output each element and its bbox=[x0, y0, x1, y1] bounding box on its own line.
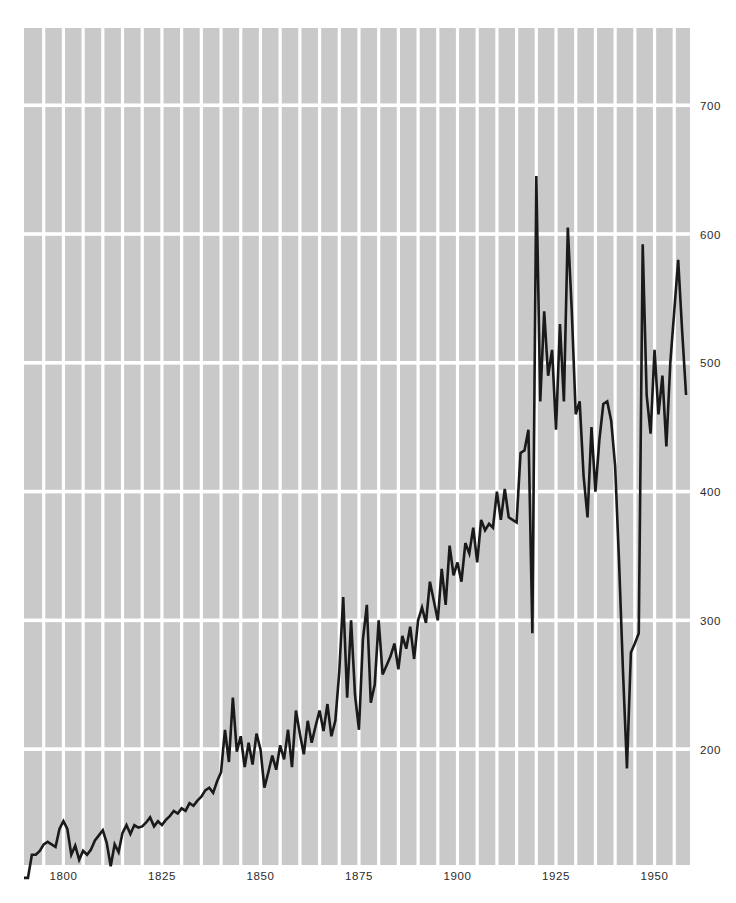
vertical-gridline bbox=[456, 28, 459, 865]
horizontal-gridline bbox=[24, 490, 690, 494]
line-chart: 200300400500600700 180018251850187519001… bbox=[0, 0, 736, 903]
vertical-gridline bbox=[82, 28, 85, 865]
vertical-gridline bbox=[180, 28, 183, 865]
horizontal-gridline bbox=[24, 103, 690, 107]
vertical-gridline bbox=[574, 28, 577, 865]
vertical-gridline bbox=[121, 28, 124, 865]
horizontal-gridline bbox=[24, 361, 690, 365]
vertical-gridline bbox=[160, 28, 163, 865]
y-axis-tick-label: 700 bbox=[700, 100, 721, 112]
x-axis-tick-label: 1950 bbox=[641, 870, 669, 882]
x-axis-tick-label: 1900 bbox=[443, 870, 471, 882]
x-axis-tick-label: 1800 bbox=[49, 870, 77, 882]
x-axis-tick-label: 1925 bbox=[542, 870, 570, 882]
vertical-gridline bbox=[594, 28, 597, 865]
vertical-gridline bbox=[219, 28, 222, 865]
vertical-gridline bbox=[653, 28, 656, 865]
vertical-gridline bbox=[416, 28, 419, 865]
vertical-gridline bbox=[495, 28, 498, 865]
y-axis-tick-label: 500 bbox=[700, 357, 721, 369]
vertical-gridline bbox=[397, 28, 400, 865]
x-axis-tick-label: 1825 bbox=[148, 870, 176, 882]
x-axis-tick-label: 1850 bbox=[246, 870, 274, 882]
vertical-gridline bbox=[633, 28, 636, 865]
vertical-gridline bbox=[515, 28, 518, 865]
vertical-gridline bbox=[554, 28, 557, 865]
y-axis-tick-label: 200 bbox=[700, 744, 721, 756]
vertical-gridline bbox=[673, 28, 676, 865]
vertical-gridline bbox=[200, 28, 203, 865]
vertical-gridline bbox=[279, 28, 282, 865]
y-axis-tick-label: 300 bbox=[700, 615, 721, 627]
vertical-gridline bbox=[259, 28, 262, 865]
horizontal-gridline bbox=[24, 619, 690, 623]
vertical-gridline bbox=[357, 28, 360, 865]
vertical-gridline bbox=[141, 28, 144, 865]
y-axis-tick-label: 400 bbox=[700, 486, 721, 498]
vertical-gridline bbox=[101, 28, 104, 865]
chart-container: 200300400500600700 180018251850187519001… bbox=[0, 0, 736, 903]
vertical-gridline bbox=[377, 28, 380, 865]
vertical-gridline bbox=[42, 28, 45, 865]
vertical-gridline bbox=[318, 28, 321, 865]
vertical-gridline bbox=[436, 28, 439, 865]
horizontal-gridline bbox=[24, 232, 690, 236]
vertical-gridline bbox=[62, 28, 65, 865]
horizontal-gridline bbox=[24, 747, 690, 751]
vertical-gridline bbox=[476, 28, 479, 865]
vertical-gridline bbox=[338, 28, 341, 865]
x-axis-tick-label: 1875 bbox=[345, 870, 373, 882]
y-axis-tick-label: 600 bbox=[700, 229, 721, 241]
